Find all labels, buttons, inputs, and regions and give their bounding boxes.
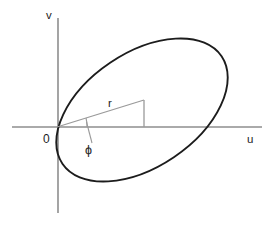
diagram-svg — [0, 0, 273, 225]
angle-leader-line — [87, 122, 93, 143]
ellipse-curve — [31, 9, 254, 211]
figure-canvas: v u 0 r ϕ — [0, 0, 273, 225]
v-axis-label: v — [46, 10, 52, 22]
radius-label: r — [108, 98, 112, 110]
angle-phi-label: ϕ — [85, 144, 92, 157]
u-axis-label: u — [247, 134, 253, 146]
radius-vector-line — [57, 100, 144, 127]
origin-label: 0 — [43, 133, 50, 145]
